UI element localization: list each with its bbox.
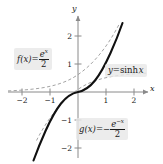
x-tick-label-1: 1 <box>101 96 111 105</box>
annotation-f-denominator: 2 <box>39 60 49 69</box>
annotation-g-minus-sign: − <box>103 124 110 134</box>
x-tick-label--2: −2 <box>16 96 28 105</box>
annotation-g-lhs: g(x) <box>79 124 96 134</box>
x-axis-label: x <box>150 84 155 93</box>
annotation-g-denominator: 2 <box>110 130 125 139</box>
annotation-y-equals-sinh-x: y=sinh x <box>105 64 147 77</box>
annotation-f-of-x: f(x)=ex2 <box>14 48 52 70</box>
y-tick-label-2: 2 <box>62 32 72 41</box>
y-axis-label: y <box>72 4 77 13</box>
annotation-g-equals: = <box>96 124 103 134</box>
annotation-g-of-x: g(x)=−e−x2 <box>76 118 128 140</box>
annotation-f-equals: = <box>32 54 39 64</box>
annotation-sinh-equals: = <box>113 65 120 75</box>
annotation-g-fraction: e−x2 <box>110 120 125 138</box>
x-tick-label-2: 2 <box>129 96 139 105</box>
hyperbolic-sine-figure: y x −2 −1 1 2 2 1 −1 −2 f(x)=ex2 g(x)=−e… <box>0 0 163 164</box>
annotation-sinh-variable: x <box>139 65 144 75</box>
annotation-f-lhs: f(x) <box>17 54 32 64</box>
annotation-f-num-exponent: x <box>45 48 48 54</box>
annotation-f-fraction: ex2 <box>39 50 49 68</box>
y-tick-label-1: 1 <box>62 60 72 69</box>
x-tick-label--1: −1 <box>44 96 56 105</box>
y-tick-label--2: −2 <box>60 144 72 153</box>
annotation-g-num-exponent: −x <box>116 118 124 124</box>
y-tick-label--1: −1 <box>60 116 72 125</box>
annotation-sinh-function: sinh <box>120 65 138 75</box>
